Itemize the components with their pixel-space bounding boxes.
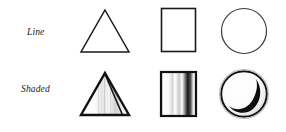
rectangle-shaded-icon [156,68,202,124]
triangle-shaded-icon [76,68,134,124]
cell-shaded-triangle [76,68,134,124]
cell-shaded-circle [216,66,272,124]
row-label-shaded: Shaded [21,84,50,94]
shape-rendering-figure: Line Shaded [0,0,286,132]
cell-line-triangle [76,6,134,58]
cell-line-circle [216,5,272,59]
circle-outline-icon [216,5,272,59]
cell-shaded-rectangle [156,68,202,124]
rectangle-outline-icon [156,4,202,58]
circle-shaded-icon [216,66,272,124]
triangle-outline-icon [76,6,134,58]
cell-line-rectangle [156,4,202,58]
row-label-line: Line [27,27,45,37]
